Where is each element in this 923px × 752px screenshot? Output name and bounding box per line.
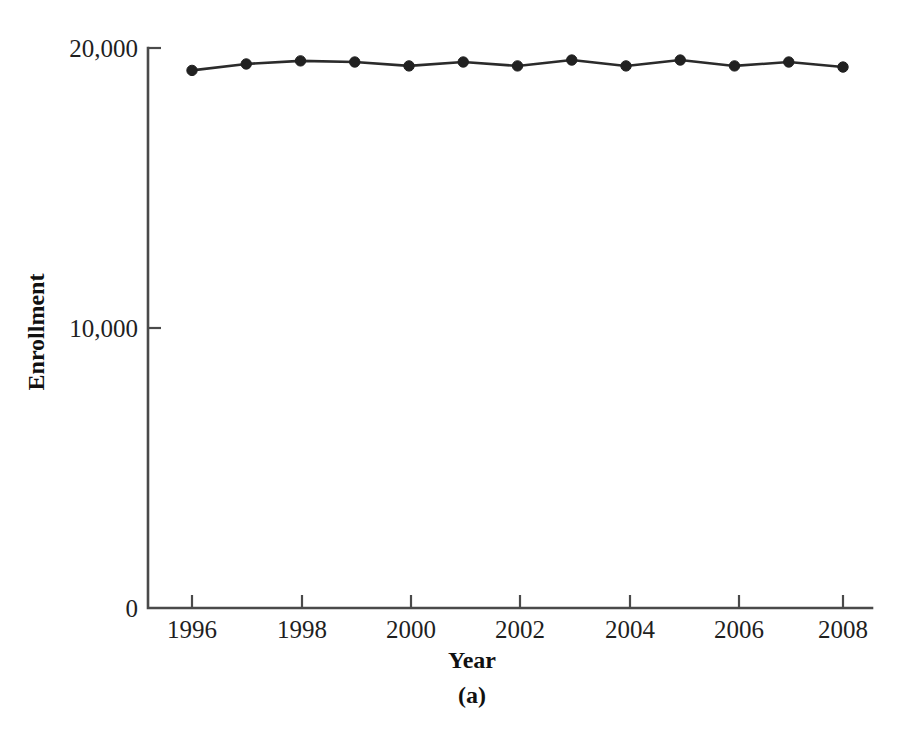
- x-tick-label-2006: 2006: [714, 616, 764, 643]
- x-axis-title: Year: [448, 647, 496, 673]
- x-tick-label-2000: 2000: [386, 616, 436, 643]
- x-tick-marks: [192, 595, 843, 608]
- axes: [148, 48, 872, 608]
- figure-caption: (a): [458, 682, 486, 708]
- x-tick-label-2008: 2008: [818, 616, 868, 643]
- x-tick-label-1998: 1998: [277, 616, 327, 643]
- data-point: [241, 59, 251, 69]
- data-point: [512, 61, 522, 71]
- series-enrollment: [187, 55, 848, 76]
- data-point: [675, 55, 685, 65]
- data-point: [567, 55, 577, 65]
- x-tick-label-2002: 2002: [495, 616, 545, 643]
- y-tick-marks: [148, 48, 161, 328]
- data-point: [404, 61, 414, 71]
- x-tick-labels: 1996 1998 2000 2002 2004 2006 2008: [167, 616, 868, 643]
- y-tick-label-20000: 20,000: [69, 35, 138, 62]
- x-tick-label-2004: 2004: [605, 616, 656, 643]
- figure-panel: 20,000 10,000 0 1996 1998 2000 2002 2004…: [0, 0, 923, 752]
- x-tick-label-1996: 1996: [167, 616, 217, 643]
- y-tick-label-0: 0: [126, 595, 139, 622]
- data-point: [729, 61, 739, 71]
- y-tick-label-10000: 10,000: [69, 315, 138, 342]
- data-point: [784, 57, 794, 67]
- data-point: [350, 57, 360, 67]
- line-chart: 20,000 10,000 0 1996 1998 2000 2002 2004…: [0, 0, 923, 752]
- y-tick-labels: 20,000 10,000 0: [69, 35, 138, 622]
- data-point: [621, 61, 631, 71]
- y-axis-title: Enrollment: [23, 274, 49, 391]
- data-point: [838, 62, 848, 72]
- data-point: [187, 65, 197, 75]
- data-point: [458, 57, 468, 67]
- data-point: [295, 56, 305, 66]
- axis-lines: [148, 48, 872, 608]
